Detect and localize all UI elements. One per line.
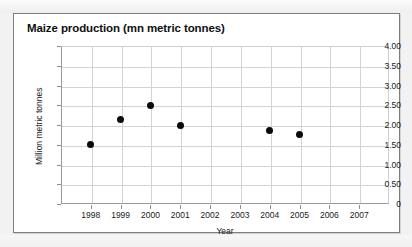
y-axis-tick-label: 1.50: [361, 140, 401, 150]
y-axis-title: Million metric tonnes: [34, 88, 44, 165]
y-axis-tick-label: 2.00: [361, 120, 401, 130]
gridline-horizontal: [62, 185, 388, 186]
x-axis-tick-mark: [121, 205, 122, 209]
x-axis-tick-label: 2002: [201, 210, 220, 220]
y-axis-tick-label: 2.50: [361, 100, 401, 110]
x-axis-tick-mark: [210, 205, 211, 209]
x-axis-tick-label: 2001: [171, 210, 190, 220]
y-axis-tick-mark: [57, 46, 61, 47]
gridline-horizontal: [62, 126, 388, 127]
gridline-horizontal: [62, 146, 388, 147]
gridline-vertical: [151, 47, 152, 203]
y-axis-tick-mark: [57, 145, 61, 146]
y-axis-tick-label: 3.50: [361, 61, 401, 71]
x-axis-tick-mark: [359, 205, 360, 209]
x-axis-tick-mark: [150, 205, 151, 209]
gridline-horizontal: [62, 166, 388, 167]
x-axis-tick-label: 2007: [350, 210, 369, 220]
gridline-vertical: [92, 47, 93, 203]
chart-card: Maize production (mn metric tonnes) Mill…: [13, 13, 400, 233]
y-axis-tick-mark: [57, 66, 61, 67]
y-axis-tick-mark: [57, 184, 61, 185]
x-axis-tick-label: 2004: [260, 210, 279, 220]
x-axis-tick-mark: [91, 205, 92, 209]
gridline-horizontal: [62, 67, 388, 68]
x-axis-tick-label: 2006: [320, 210, 339, 220]
y-axis-tick-label: 1.00: [361, 160, 401, 170]
x-axis-tick-mark: [240, 205, 241, 209]
x-axis-tick-mark: [300, 205, 301, 209]
data-point: [177, 122, 184, 129]
y-axis-tick-label: 4.00: [361, 41, 401, 51]
x-axis-tick-label: 1999: [111, 210, 130, 220]
gridline-vertical: [301, 47, 302, 203]
y-axis-tick-mark: [57, 125, 61, 126]
x-axis-tick-mark: [270, 205, 271, 209]
y-axis-tick-mark: [57, 204, 61, 205]
y-axis-tick-mark: [57, 165, 61, 166]
gridline-horizontal: [62, 87, 388, 88]
y-axis-tick-mark: [57, 105, 61, 106]
gridline-vertical: [241, 47, 242, 203]
gridline-vertical: [330, 47, 331, 203]
x-axis-tick-label: 2003: [230, 210, 249, 220]
x-axis-tick-mark: [180, 205, 181, 209]
gridline-vertical: [211, 47, 212, 203]
gridline-vertical: [122, 47, 123, 203]
y-axis-tick-mark: [57, 86, 61, 87]
gridline-horizontal: [62, 106, 388, 107]
x-axis-title: Year: [216, 226, 233, 236]
scan-artifact-bottom: [0, 235, 412, 247]
scan-artifact-top: [0, 0, 412, 13]
gridline-vertical: [271, 47, 272, 203]
x-axis-tick-label: 2000: [141, 210, 160, 220]
y-axis-tick-label: 3.00: [361, 81, 401, 91]
y-axis-tick-label: 0.50: [361, 179, 401, 189]
x-axis-tick-label: 2005: [290, 210, 309, 220]
chart-plot-wrapper: Million metric tonnes 00.501.001.502.002…: [14, 14, 401, 234]
y-axis-tick-label: 0: [361, 199, 401, 209]
data-point: [147, 102, 154, 109]
x-axis-tick-label: 1998: [81, 210, 100, 220]
plot-area: [61, 46, 389, 204]
x-axis-tick-mark: [329, 205, 330, 209]
data-point: [117, 116, 124, 123]
